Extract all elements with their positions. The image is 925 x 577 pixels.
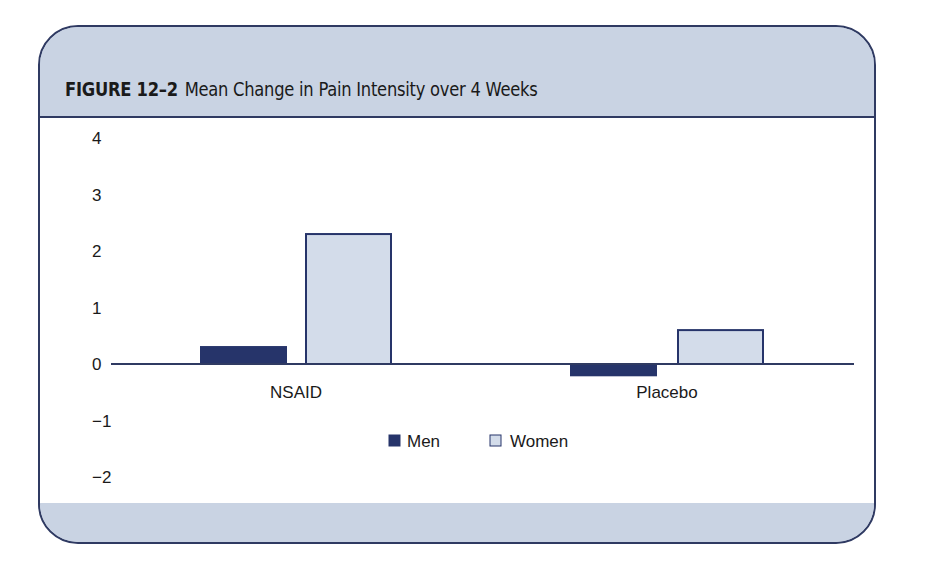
figure-footer [40, 503, 874, 542]
y-tick-label: 1 [92, 299, 101, 318]
figure-frame: FIGURE 12–2Mean Change in Pain Intensity… [38, 25, 876, 544]
category-label-placebo: Placebo [636, 383, 697, 402]
figure-header: FIGURE 12–2Mean Change in Pain Intensity… [40, 27, 874, 118]
figure-caption: Mean Change in Pain Intensity over 4 Wee… [185, 78, 538, 100]
bar-placebo-women [678, 330, 763, 364]
y-tick-label: 3 [92, 186, 101, 205]
y-tick-label: 4 [92, 129, 101, 148]
legend-swatch-men [389, 435, 400, 446]
y-tick-label: −2 [92, 468, 111, 487]
legend-label-women: Women [510, 432, 568, 451]
bar-nsaid-women [306, 234, 391, 364]
figure-title: FIGURE 12–2Mean Change in Pain Intensity… [65, 78, 537, 100]
bar-nsaid-men [201, 347, 286, 364]
category-label-nsaid: NSAID [270, 383, 322, 402]
figure-label: FIGURE 12–2 [65, 78, 178, 100]
y-tick-label: 0 [92, 355, 101, 374]
bar-chart: 43210−1−2NSAIDPlaceboMenWomen [40, 118, 874, 503]
y-tick-label: −1 [92, 412, 111, 431]
chart-area: 43210−1−2NSAIDPlaceboMenWomen [40, 118, 874, 505]
legend-label-men: Men [407, 432, 440, 451]
bar-placebo-men [571, 364, 656, 375]
legend-swatch-women [490, 435, 501, 446]
y-tick-label: 2 [92, 242, 101, 261]
